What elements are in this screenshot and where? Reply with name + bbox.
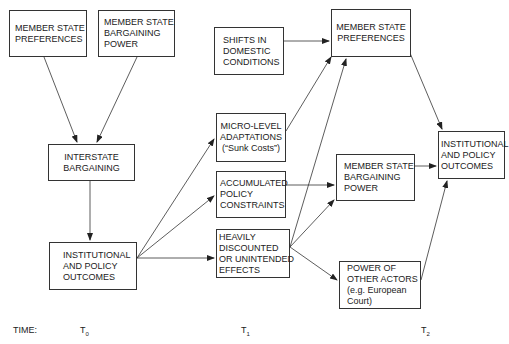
box-micro-level-adaptations: MICRO-LEVEL ADAPTATIONS (“Sunk Costs”)	[216, 113, 286, 162]
box-text: AND POLICY	[63, 261, 131, 272]
box-text: INSTITUTIONAL	[441, 139, 499, 150]
box-text: OTHER ACTORS	[347, 274, 415, 285]
box-text: CONSTRAINTS	[220, 200, 280, 211]
box-text: OUTCOMES	[63, 272, 131, 283]
arrow-power-to-bargaining	[97, 57, 137, 142]
box-text: OR UNINTENDED	[219, 254, 284, 265]
box-text: OUTCOMES	[441, 161, 499, 172]
time-subscript: 0	[86, 331, 89, 337]
time-t2: T2	[421, 325, 430, 337]
box-text: MEMBER STATE	[336, 22, 406, 33]
time-t1: T1	[241, 325, 250, 337]
time-label: TIME:	[13, 325, 37, 335]
box-text: PREFERENCES	[337, 33, 405, 44]
arrow-outcomes-to-micro	[137, 139, 214, 258]
box-text: PREFERENCES	[15, 34, 81, 45]
box-member-state-bargaining-power-t0: MEMBER STATE BARGAINING POWER	[98, 10, 175, 57]
box-text: MEMBER STATE	[344, 161, 409, 172]
arrow-outcomes-to-accumulated	[137, 196, 214, 258]
box-text: INTERSTATE	[64, 152, 119, 163]
box-text: POLICY	[220, 189, 280, 200]
box-text: EFFECTS	[219, 265, 284, 276]
box-text: MICRO-LEVEL	[220, 121, 281, 132]
box-member-state-preferences-t2: MEMBER STATE PREFERENCES	[331, 9, 411, 57]
box-text: BARGAINING	[63, 163, 120, 174]
box-text: CONDITIONS	[223, 57, 278, 68]
arrow-pref-to-bargaining	[44, 57, 77, 142]
box-text: DOMESTIC	[223, 46, 278, 57]
box-text: BARGAINING	[104, 28, 169, 39]
box-text: Court)	[347, 296, 415, 307]
arrow-micro-to-pref	[286, 57, 331, 131]
box-text: ACCUMULATED	[220, 178, 280, 189]
box-text: POWER	[104, 39, 169, 50]
box-text: (e.g. European	[347, 285, 415, 296]
box-text: MEMBER STATE	[104, 17, 169, 28]
box-text: BARGAINING	[344, 172, 409, 183]
arrow-heavily-to-pref	[290, 59, 346, 247]
time-subscript: 2	[427, 331, 430, 337]
box-power-of-other-actors: POWER OF OTHER ACTORS (e.g. European Cou…	[339, 261, 421, 309]
box-text: ADAPTATIONS	[220, 132, 282, 143]
box-accumulated-policy-constraints: ACCUMULATED POLICY CONSTRAINTS	[216, 171, 286, 218]
box-text: AND POLICY	[441, 150, 499, 161]
box-text: (“Sunk Costs”)	[222, 143, 280, 154]
time-t0: T0	[80, 325, 89, 337]
box-text: POWER	[344, 183, 409, 194]
box-text: INSTITUTIONAL	[63, 250, 131, 261]
box-text: MEMBER STATE	[15, 23, 81, 34]
box-heavily-discounted-effects: HEAVILY DISCOUNTED OR UNINTENDED EFFECTS	[216, 229, 290, 278]
box-text: POWER OF	[347, 263, 415, 274]
box-member-state-preferences-t0: MEMBER STATE PREFERENCES	[9, 10, 87, 57]
time-subscript: 1	[247, 331, 250, 337]
box-text: HEAVILY	[219, 232, 284, 243]
arrow-pref-to-outcomes	[410, 53, 442, 129]
box-shifts-domestic-conditions: SHIFTS IN DOMESTIC CONDITIONS	[214, 27, 284, 75]
arrow-heavily-to-other-actors	[290, 247, 337, 280]
box-text: DISCOUNTED	[219, 243, 284, 254]
box-institutional-policy-outcomes-t0: INSTITUTIONAL AND POLICY OUTCOMES	[49, 242, 137, 290]
box-institutional-policy-outcomes-t2: INSTITUTIONAL AND POLICY OUTCOMES	[438, 131, 505, 179]
box-member-state-bargaining-power-t2: MEMBER STATE BARGAINING POWER	[336, 154, 415, 201]
box-interstate-bargaining: INTERSTATE BARGAINING	[48, 144, 135, 181]
arrow-other-actors-to-outcomes	[421, 181, 447, 280]
box-text: SHIFTS IN	[223, 35, 278, 46]
